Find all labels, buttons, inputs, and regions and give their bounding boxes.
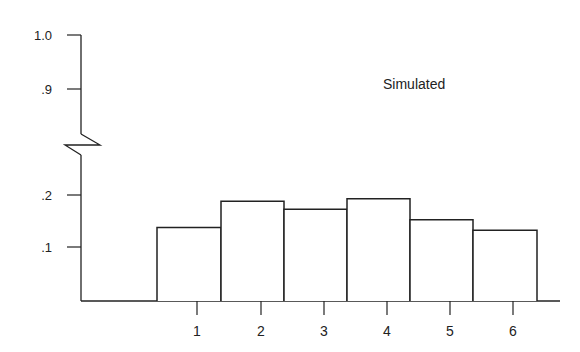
histogram-chart: 1.0 .9 .2 .1 123456 Simulated — [0, 0, 580, 352]
y-tick-label: .9 — [41, 82, 52, 97]
y-ticks — [67, 35, 81, 247]
x-tick-label: 5 — [446, 323, 454, 339]
bar-4 — [347, 199, 410, 301]
y-tick-label: .1 — [41, 240, 52, 255]
x-tick-label: 4 — [383, 323, 391, 339]
x-ticks: 123456 — [193, 301, 517, 339]
x-tick-label: 2 — [257, 323, 265, 339]
bar-1 — [157, 228, 221, 302]
y-tick-label: 1.0 — [34, 28, 52, 43]
bars — [157, 199, 537, 301]
bar-3 — [284, 209, 347, 301]
y-tick-label: .2 — [41, 188, 52, 203]
bar-6 — [473, 230, 537, 301]
x-tick-label: 6 — [509, 323, 517, 339]
bar-5 — [410, 220, 473, 301]
y-tick-labels: 1.0 .9 .2 .1 — [34, 28, 52, 255]
series-annotation: Simulated — [383, 76, 445, 92]
x-tick-label: 3 — [320, 323, 328, 339]
bar-2 — [221, 201, 284, 301]
axis-break-icon — [65, 134, 100, 155]
x-tick-label: 1 — [193, 323, 201, 339]
